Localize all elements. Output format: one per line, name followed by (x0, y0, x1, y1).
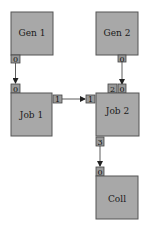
port-gen1-out0[interactable]: 0 (11, 55, 20, 64)
port-label: 1 (88, 95, 93, 104)
port-job2-in2[interactable]: 2 (108, 84, 117, 94)
node-job2[interactable]: Job 2 (96, 93, 139, 136)
port-job2-in0[interactable]: 0 (118, 84, 126, 94)
node-label: Job 2 (105, 106, 129, 116)
port-job1-in0[interactable]: 0 (11, 84, 20, 94)
port-job2-out3[interactable]: 3 (96, 137, 104, 147)
port-label: 0 (13, 55, 18, 64)
node-label: Gen 1 (19, 28, 46, 38)
node-label: Gen 2 (104, 28, 131, 38)
port-label: 0 (119, 55, 124, 64)
port-label: 3 (97, 138, 102, 147)
port-job1-out1[interactable]: 1 (53, 95, 62, 104)
port-label: 2 (110, 85, 115, 94)
node-gen2[interactable]: Gen 2 (96, 12, 138, 55)
port-label: 0 (119, 85, 124, 94)
port-label: 0 (97, 168, 102, 177)
port-gen2-out0[interactable]: 0 (118, 55, 126, 64)
port-job2-in1[interactable]: 1 (86, 95, 95, 104)
node-gen1[interactable]: Gen 1 (11, 12, 53, 55)
diagram-canvas: Gen 1 0 Gen 2 0 0 Job 1 1 1 2 0 Job 2 (0, 0, 149, 230)
node-coll[interactable]: Coll (96, 176, 138, 219)
port-coll-in0[interactable]: 0 (96, 167, 104, 177)
node-label: Job 1 (19, 110, 43, 120)
port-label: 0 (13, 85, 18, 94)
node-label: Coll (108, 194, 126, 204)
node-job1[interactable]: Job 1 (11, 93, 52, 136)
port-label: 1 (55, 95, 60, 104)
